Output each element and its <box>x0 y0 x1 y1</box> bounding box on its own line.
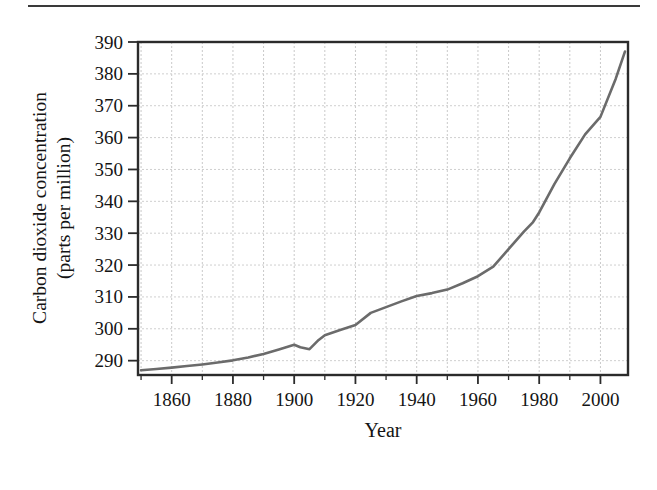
x-tick-label: 1860 <box>153 389 191 410</box>
x-tick-label: 1980 <box>520 389 558 410</box>
y-tick-label: 300 <box>95 318 124 339</box>
y-tick-label: 290 <box>95 350 124 371</box>
x-tick-label: 1900 <box>275 389 313 410</box>
y-tick-label: 340 <box>95 191 124 212</box>
plot-area-background <box>138 42 628 375</box>
x-axis-title: Year <box>365 419 402 441</box>
y-tick-label: 320 <box>95 255 124 276</box>
y-axis-ticks <box>128 42 138 361</box>
y-axis-tick-labels: 290300310320330340350360370380390 <box>95 32 124 372</box>
y-tick-label: 310 <box>95 286 124 307</box>
y-tick-label: 390 <box>95 32 124 53</box>
x-tick-label: 1940 <box>398 389 436 410</box>
y-tick-label: 350 <box>95 159 124 180</box>
y-tick-label: 370 <box>95 95 124 116</box>
x-axis-tick-labels: 18601880190019201940196019802000 <box>153 389 620 410</box>
y-tick-label: 360 <box>95 127 124 148</box>
x-tick-label: 1960 <box>459 389 497 410</box>
y-tick-label: 330 <box>95 223 124 244</box>
x-tick-label: 1880 <box>214 389 252 410</box>
x-tick-label: 2000 <box>581 389 619 410</box>
y-axis-title-line2: (parts per million) <box>53 137 75 279</box>
y-tick-label: 380 <box>95 63 124 84</box>
y-axis-title-line1: Carbon dioxide concentration <box>29 92 50 324</box>
co2-line-chart: 18601880190019201940196019802000 2903003… <box>0 0 657 490</box>
x-tick-label: 1920 <box>336 389 374 410</box>
figure-root: 18601880190019201940196019802000 2903003… <box>0 0 657 490</box>
